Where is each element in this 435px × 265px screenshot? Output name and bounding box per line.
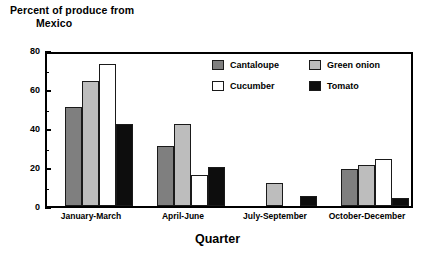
bar-cucumber[interactable] — [99, 64, 116, 206]
bar-cantaloupe[interactable] — [341, 169, 358, 206]
y-axis-tick-label: 20 — [18, 163, 40, 173]
bar-cucumber[interactable] — [375, 159, 392, 206]
bar-tomato[interactable] — [392, 198, 409, 206]
legend-item[interactable]: Tomato — [309, 81, 398, 91]
legend-item[interactable]: Cucumber — [212, 81, 297, 91]
y-axis-tick — [45, 90, 51, 92]
y-axis-tick — [45, 51, 51, 53]
y-axis-tick — [45, 129, 51, 131]
y-axis-tick-label: 40 — [18, 124, 40, 134]
y-axis-tick-label: 0 — [18, 202, 40, 212]
chart-container: Percent of produce from Mexico Quarter C… — [0, 0, 435, 265]
bar-green-onion[interactable] — [358, 165, 375, 206]
x-axis-tick-label: October-December — [321, 211, 413, 221]
bar-green-onion[interactable] — [174, 124, 191, 206]
chart-legend: CantaloupeGreen onionCucumberTomato — [212, 60, 398, 91]
legend-item[interactable]: Green onion — [309, 60, 398, 70]
y-axis-tick — [45, 207, 51, 209]
bar-tomato[interactable] — [300, 196, 317, 206]
bar-green-onion[interactable] — [82, 81, 99, 206]
chart-title-line1: Percent of produce from — [10, 4, 134, 16]
y-axis-minor-tick — [45, 150, 49, 151]
x-axis-tick-label: April-June — [137, 211, 229, 221]
legend-swatch-icon — [212, 60, 224, 70]
bar-tomato[interactable] — [116, 124, 133, 206]
y-axis-minor-tick — [45, 72, 49, 73]
y-axis-tick-label: 60 — [18, 85, 40, 95]
y-axis-tick-label: 80 — [18, 46, 40, 56]
bar-green-onion[interactable] — [266, 183, 283, 206]
y-axis-tick — [45, 168, 51, 170]
legend-label: Cantaloupe — [230, 60, 279, 70]
y-axis-minor-tick — [45, 189, 49, 190]
bar-cantaloupe[interactable] — [157, 146, 174, 206]
legend-label: Tomato — [327, 81, 359, 91]
x-axis-title: Quarter — [0, 232, 435, 246]
bar-group — [65, 54, 133, 206]
bar-tomato[interactable] — [208, 167, 225, 206]
legend-item[interactable]: Cantaloupe — [212, 60, 297, 70]
bar-cantaloupe[interactable] — [65, 107, 82, 206]
chart-title-line2: Mexico — [10, 17, 134, 30]
x-axis-tick-label: January-March — [45, 211, 137, 221]
legend-swatch-icon — [309, 81, 321, 91]
chart-title: Percent of produce from Mexico — [10, 4, 134, 30]
legend-swatch-icon — [212, 81, 224, 91]
bar-cucumber[interactable] — [191, 175, 208, 206]
y-axis-minor-tick — [45, 111, 49, 112]
legend-label: Cucumber — [230, 81, 275, 91]
x-axis-tick-label: July-September — [229, 211, 321, 221]
legend-swatch-icon — [309, 60, 321, 70]
legend-label: Green onion — [327, 60, 380, 70]
